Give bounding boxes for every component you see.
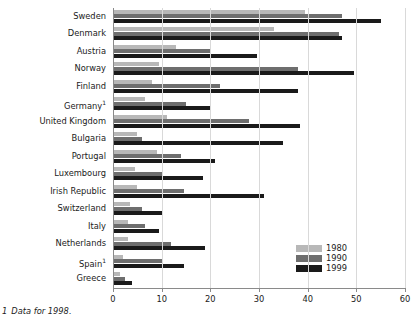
gridline-10 xyxy=(162,8,163,288)
legend-swatch xyxy=(296,255,322,262)
category-label: Germany1 xyxy=(0,98,106,111)
bar xyxy=(113,62,159,66)
legend-label: 1999 xyxy=(326,263,347,273)
bar xyxy=(113,32,339,36)
bar xyxy=(113,272,120,276)
x-tick-label: 0 xyxy=(110,294,115,304)
bar xyxy=(113,229,159,233)
bar xyxy=(113,281,132,285)
bar xyxy=(113,207,142,211)
bar xyxy=(113,277,125,281)
bar-chart: SwedenDenmarkAustriaNorwayFinlandGermany… xyxy=(0,0,418,323)
category-label: Finland xyxy=(0,81,106,91)
x-tick-50 xyxy=(356,288,357,292)
category-footnote-mark: 1 xyxy=(102,257,106,264)
gridline-50 xyxy=(356,8,357,288)
chart-footnote: 1Data for 1998. xyxy=(2,306,72,316)
x-tick-label: 40 xyxy=(302,294,313,304)
bar xyxy=(113,154,181,158)
chart-legend: 198019901999 xyxy=(296,243,396,273)
legend-swatch xyxy=(296,245,322,252)
bar xyxy=(113,115,167,119)
bar xyxy=(113,45,176,49)
bar xyxy=(113,264,184,268)
x-tick-label: 50 xyxy=(351,294,362,304)
legend-label: 1990 xyxy=(326,253,347,263)
bar xyxy=(113,246,205,250)
bar xyxy=(113,84,220,88)
category-label: Luxembourg xyxy=(0,168,106,178)
gridline-40 xyxy=(308,8,309,288)
category-label: Irish Republic xyxy=(0,186,106,196)
bar xyxy=(113,19,381,23)
category-label: Greece xyxy=(0,273,106,283)
category-label: Netherlands xyxy=(0,238,106,248)
x-tick-60 xyxy=(405,288,406,292)
bar xyxy=(113,71,354,75)
bar xyxy=(113,67,298,71)
bar xyxy=(113,202,130,206)
category-label: United Kingdom xyxy=(0,116,106,126)
bar xyxy=(113,97,145,101)
bar xyxy=(113,194,264,198)
category-axis-labels: SwedenDenmarkAustriaNorwayFinlandGermany… xyxy=(0,8,106,288)
category-label: Spain1 xyxy=(0,256,106,269)
bar xyxy=(113,137,142,141)
bar xyxy=(113,176,203,180)
bar xyxy=(113,119,249,123)
bar xyxy=(113,27,274,31)
category-label: Sweden xyxy=(0,11,106,21)
bar xyxy=(113,211,162,215)
x-tick-30 xyxy=(259,288,260,292)
bar xyxy=(113,159,215,163)
x-tick-20 xyxy=(210,288,211,292)
gridline-20 xyxy=(210,8,211,288)
x-tick-label: 10 xyxy=(156,294,167,304)
bar xyxy=(113,259,162,263)
bar xyxy=(113,224,145,228)
category-label: Norway xyxy=(0,63,106,73)
legend-label: 1980 xyxy=(326,243,347,253)
category-label: Austria xyxy=(0,46,106,56)
bar xyxy=(113,89,298,93)
bar xyxy=(113,189,184,193)
x-tick-label: 30 xyxy=(254,294,265,304)
bar xyxy=(113,185,137,189)
bar xyxy=(113,141,283,145)
category-label: Switzerland xyxy=(0,203,106,213)
footnote-marker: 1 xyxy=(2,306,7,316)
footnote-text: Data for 1998. xyxy=(11,306,71,316)
bar xyxy=(113,80,152,84)
bar xyxy=(113,167,135,171)
x-tick-40 xyxy=(308,288,309,292)
bar xyxy=(113,54,257,58)
bar xyxy=(113,102,186,106)
legend-item: 1990 xyxy=(296,253,396,263)
category-label: Portugal xyxy=(0,151,106,161)
category-label: Italy xyxy=(0,221,106,231)
category-footnote-mark: 1 xyxy=(102,99,106,106)
gridline-30 xyxy=(259,8,260,288)
legend-item: 1999 xyxy=(296,263,396,273)
bar xyxy=(113,255,123,259)
bar xyxy=(113,124,300,128)
x-tick-10 xyxy=(162,288,163,292)
x-tick-label: 60 xyxy=(400,294,411,304)
bar xyxy=(113,150,157,154)
bar xyxy=(113,132,137,136)
bar xyxy=(113,10,305,14)
legend-swatch xyxy=(296,265,322,272)
gridline-60 xyxy=(405,8,406,288)
category-label: Bulgaria xyxy=(0,133,106,143)
legend-item: 1980 xyxy=(296,243,396,253)
bar xyxy=(113,220,128,224)
bar xyxy=(113,172,162,176)
x-tick-label: 20 xyxy=(205,294,216,304)
gridline-0 xyxy=(113,8,114,288)
bar xyxy=(113,237,128,241)
category-label: Denmark xyxy=(0,28,106,38)
x-tick-0 xyxy=(113,288,114,292)
